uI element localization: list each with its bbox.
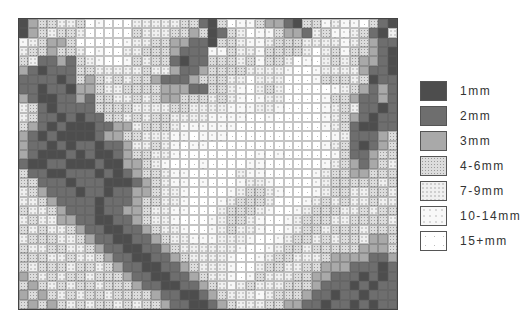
map-cell	[66, 28, 75, 37]
map-cell	[236, 28, 245, 37]
map-cell	[265, 253, 274, 262]
map-cell	[189, 225, 198, 234]
map-cell	[95, 234, 104, 243]
map-cell	[142, 75, 151, 84]
map-cell	[274, 290, 283, 299]
map-cell	[321, 131, 330, 140]
map-cell	[85, 300, 94, 309]
map-cell	[38, 178, 47, 187]
map-cell	[19, 178, 28, 187]
map-cell	[19, 66, 28, 75]
map-cell	[66, 75, 75, 84]
map-cell	[293, 272, 302, 281]
map-cell	[132, 141, 141, 150]
legend-item-7-9mm: 7-9mm	[420, 178, 521, 203]
map-cell	[331, 225, 340, 234]
map-cell	[76, 131, 85, 140]
map-cell	[227, 300, 236, 309]
map-cell	[132, 244, 141, 253]
map-cell	[321, 141, 330, 150]
map-cell	[331, 47, 340, 56]
map-cell	[170, 150, 179, 159]
map-cell	[151, 84, 160, 93]
map-cell	[369, 225, 378, 234]
map-cell	[123, 272, 132, 281]
map-cell	[180, 159, 189, 168]
map-cell	[255, 47, 264, 56]
map-cell	[151, 103, 160, 112]
map-cell	[161, 197, 170, 206]
map-cell	[199, 253, 208, 262]
map-cell	[312, 56, 321, 65]
map-cell	[302, 150, 311, 159]
map-cell	[38, 141, 47, 150]
map-cell	[265, 300, 274, 309]
map-cell	[369, 141, 378, 150]
map-cell	[265, 225, 274, 234]
map-cell	[123, 215, 132, 224]
map-cell	[302, 234, 311, 243]
map-cell	[340, 47, 349, 56]
map-cell	[255, 103, 264, 112]
map-cell	[47, 215, 56, 224]
map-cell	[227, 187, 236, 196]
map-cell	[378, 169, 387, 178]
map-cell	[236, 150, 245, 159]
map-cell	[76, 94, 85, 103]
map-cell	[132, 84, 141, 93]
map-cell	[340, 215, 349, 224]
map-cell	[208, 131, 217, 140]
map-cell	[359, 38, 368, 47]
map-cell	[369, 215, 378, 224]
map-cell	[255, 113, 264, 122]
map-cell	[331, 272, 340, 281]
map-cell	[217, 206, 226, 215]
map-cell	[142, 234, 151, 243]
map-cell	[265, 234, 274, 243]
map-cell	[312, 215, 321, 224]
map-cell	[350, 206, 359, 215]
map-cell	[95, 300, 104, 309]
map-cell	[19, 113, 28, 122]
map-cell	[38, 131, 47, 140]
map-cell	[57, 215, 66, 224]
map-cell	[199, 56, 208, 65]
map-cell	[265, 141, 274, 150]
map-cell	[227, 38, 236, 47]
map-cell	[47, 253, 56, 262]
map-cell	[321, 197, 330, 206]
map-cell	[142, 150, 151, 159]
map-cell	[57, 66, 66, 75]
map-cell	[123, 169, 132, 178]
map-cell	[151, 206, 160, 215]
map-cell	[369, 290, 378, 299]
map-cell	[95, 215, 104, 224]
map-cell	[302, 300, 311, 309]
map-cell	[142, 113, 151, 122]
map-cell	[246, 215, 255, 224]
map-cell	[217, 141, 226, 150]
map-cell	[284, 225, 293, 234]
map-cell	[151, 19, 160, 28]
map-cell	[180, 122, 189, 131]
map-cell	[113, 272, 122, 281]
map-cell	[123, 94, 132, 103]
map-cell	[151, 197, 160, 206]
map-cell	[340, 28, 349, 37]
map-cell	[255, 178, 264, 187]
map-cell	[369, 103, 378, 112]
map-cell	[227, 244, 236, 253]
map-cell	[38, 113, 47, 122]
map-cell	[123, 75, 132, 84]
map-cell	[28, 84, 37, 93]
map-cell	[350, 150, 359, 159]
map-cell	[227, 272, 236, 281]
map-cell	[199, 169, 208, 178]
map-cell	[302, 94, 311, 103]
map-cell	[293, 131, 302, 140]
map-cell	[38, 169, 47, 178]
map-cell	[170, 262, 179, 271]
map-cell	[104, 187, 113, 196]
map-cell	[76, 300, 85, 309]
map-cell	[217, 75, 226, 84]
